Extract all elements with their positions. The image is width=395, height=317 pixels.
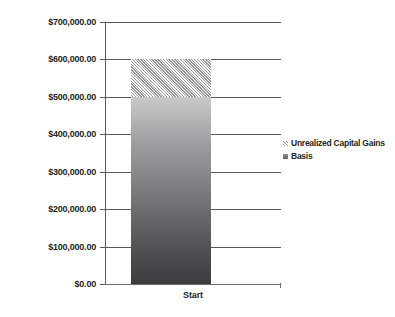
gradient-swatch-icon xyxy=(283,154,288,159)
bar-segment-unrealized-capital-gains[interactable] xyxy=(131,59,211,97)
plot-area xyxy=(105,22,281,284)
y-axis-label-200000: $200,000.00 xyxy=(48,205,96,214)
legend-label-unrealized-capital-gains: Unrealized Capital Gains xyxy=(291,139,385,148)
x-axis-label-start: Start xyxy=(105,290,281,300)
hatch-swatch-icon xyxy=(283,141,288,146)
y-axis-label-500000: $500,000.00 xyxy=(48,93,96,102)
y-axis-label-300000: $300,000.00 xyxy=(48,168,96,177)
y-axis-label-600000: $600,000.00 xyxy=(48,55,96,64)
bar-segment-basis[interactable] xyxy=(131,97,211,284)
stacked-bar-chart: $700,000.00 $600,000.00 $500,000.00 $400… xyxy=(0,0,395,317)
y-axis-label-400000: $400,000.00 xyxy=(48,130,96,139)
y-axis-label-0: $0.00 xyxy=(74,280,96,289)
y-axis-label-100000: $100,000.00 xyxy=(48,243,96,252)
y-axis-label-700000: $700,000.00 xyxy=(48,18,96,27)
legend-item-basis[interactable]: Basis xyxy=(283,150,395,162)
legend-label-basis: Basis xyxy=(291,152,312,161)
chart-legend: Unrealized Capital Gains Basis xyxy=(283,137,395,163)
legend-item-unrealized-capital-gains[interactable]: Unrealized Capital Gains xyxy=(283,137,395,149)
x-axis-baseline xyxy=(105,284,281,285)
x-axis-end-tick xyxy=(280,283,281,288)
gridline-700000 xyxy=(105,22,281,23)
